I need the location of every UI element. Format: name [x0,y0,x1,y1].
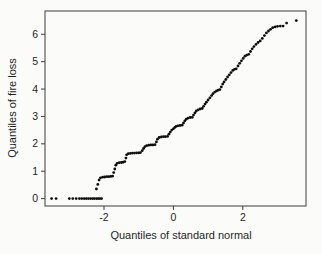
y-tick-label: 4 [32,83,38,95]
y-tick-label: 5 [32,55,38,67]
data-point [224,78,227,81]
data-point [285,22,288,25]
data-point [263,34,266,37]
data-point [95,188,98,191]
data-point [100,197,103,200]
data-point [271,26,274,29]
data-point [205,101,208,104]
data-point [295,19,298,22]
figure-background [0,0,322,254]
data-point [249,50,252,53]
data-point [238,62,241,65]
y-tick-label: 0 [32,192,38,204]
data-point [55,197,58,200]
data-point [230,71,233,74]
data-point [274,26,277,29]
data-point [265,32,268,35]
data-point [207,99,210,102]
x-axis-title: Quantiles of standard normal [110,229,251,241]
data-point [123,160,126,163]
data-point [80,197,83,200]
data-point [209,96,212,99]
data-point [125,157,128,160]
data-point [220,86,223,89]
y-tick-label: 1 [32,165,38,177]
data-point [226,76,229,79]
qq-plot-figure: -202 0123456 Quantiles of standard norma… [0,0,322,254]
data-point [253,45,256,48]
data-point [75,197,78,200]
data-point [247,53,250,56]
data-point [259,40,262,43]
data-point [240,59,243,62]
y-tick-label: 3 [32,110,38,122]
data-point [255,43,258,46]
data-point [68,197,71,200]
data-point [242,57,245,60]
data-point [154,143,157,146]
data-point [251,47,254,50]
data-point [219,88,222,91]
data-point [96,183,99,186]
x-tick-label: -2 [99,211,108,223]
y-tick-label: 2 [32,137,38,149]
data-point [279,25,282,28]
data-point [155,141,158,144]
data-point [261,37,264,40]
data-point [50,197,53,200]
data-point [237,65,240,68]
data-point [111,175,114,178]
y-tick-label: 6 [32,28,38,40]
data-point [223,81,226,84]
data-point [78,197,81,200]
data-point [228,73,231,76]
data-point [276,25,279,28]
data-point [113,168,116,171]
data-point [71,197,74,200]
data-point [112,171,115,174]
x-tick-label: 0 [170,211,176,223]
qq-plot-canvas: -202 0123456 Quantiles of standard norma… [0,0,322,254]
data-point [282,25,285,28]
data-point [235,67,238,70]
x-tick-label: 2 [240,211,246,223]
y-axis-title: Quantiles of fire loss [6,58,18,158]
